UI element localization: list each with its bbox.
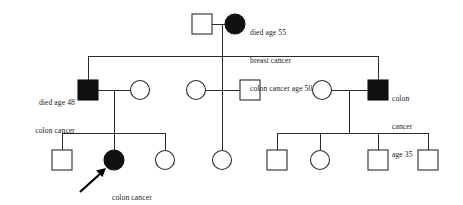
annotation-gen2-male-right: colon cancer age 35 — [392, 76, 458, 177]
individual-I-1-male-unaffected[interactable] — [192, 14, 212, 34]
individual-III-4-female-unaffected[interactable] — [213, 151, 232, 170]
individual-III-3-female-unaffected[interactable] — [156, 151, 175, 170]
annotation-gen2-male-left-line-1: died age 48 — [2, 98, 75, 107]
individual-III-6-female-unaffected[interactable] — [311, 151, 330, 170]
annotation-proband-female: colon cancer age 36 — [112, 175, 192, 205]
proband-arrow-shaft — [80, 173, 101, 192]
generation-3-symbols — [52, 150, 438, 170]
annotation-founder-female-line-3: colon cancer age 50 — [250, 84, 400, 93]
individual-II-3-female-unaffected[interactable] — [187, 81, 206, 100]
annotation-founder-female: died age 55 breast cancer colon cancer a… — [250, 10, 400, 111]
individual-III-5-male-unaffected[interactable] — [267, 150, 287, 170]
annotation-gen2-male-right-line-2: cancer — [392, 122, 458, 131]
annotation-gen2-male-right-line-3: age 35 — [392, 150, 458, 159]
annotation-founder-female-line-1: died age 55 — [250, 28, 400, 37]
individual-II-2-female-unaffected[interactable] — [131, 81, 150, 100]
annotation-proband-female-line-1: colon cancer — [112, 193, 192, 202]
proband-arrow-icon — [80, 168, 106, 192]
annotation-gen2-male-right-line-1: colon — [392, 94, 458, 103]
individual-III-2-female-affected-proband[interactable] — [104, 150, 124, 170]
individual-III-7-male-unaffected[interactable] — [368, 150, 388, 170]
annotation-gen2-male-left-line-2: colon cancer — [2, 126, 75, 135]
pedigree-chart: died age 55 breast cancer colon cancer a… — [0, 0, 463, 205]
annotation-gen2-male-left: died age 48 colon cancer — [2, 80, 75, 154]
annotation-founder-female-line-2: breast cancer — [250, 56, 400, 65]
individual-I-2-female-affected[interactable] — [225, 14, 245, 34]
individual-II-1-male-affected[interactable] — [78, 80, 98, 100]
